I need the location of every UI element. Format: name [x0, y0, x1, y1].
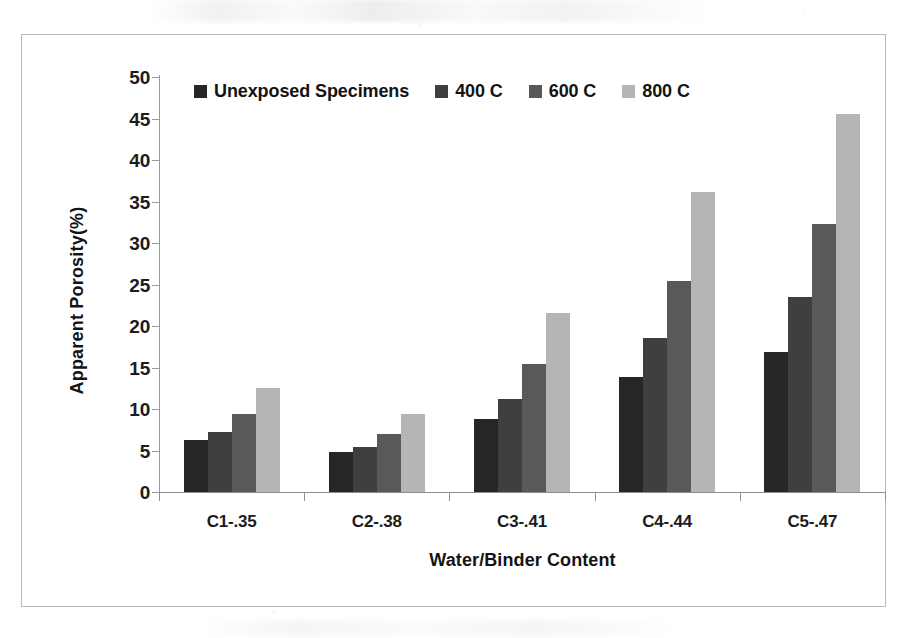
bar[interactable] — [619, 377, 643, 492]
y-axis-tick-label: 40 — [110, 151, 150, 170]
bar-group — [159, 77, 304, 492]
bar[interactable] — [836, 114, 860, 492]
bar[interactable] — [691, 192, 715, 492]
y-axis-tick — [152, 285, 160, 286]
x-axis-title: Water/Binder Content — [159, 550, 886, 571]
bar[interactable] — [764, 352, 788, 492]
bar[interactable] — [401, 414, 425, 492]
y-axis-tick — [152, 160, 160, 161]
x-axis-category-label: C4-.44 — [595, 513, 740, 530]
bar[interactable] — [667, 281, 691, 492]
y-axis-tick-labels: 05101520253035404550 — [72, 35, 150, 608]
y-axis-tick — [152, 368, 160, 369]
bar[interactable] — [208, 432, 232, 492]
bar[interactable] — [474, 419, 498, 492]
x-axis-tick — [595, 492, 596, 501]
bar[interactable] — [788, 297, 812, 492]
y-axis-tick — [152, 119, 160, 120]
y-axis-tick — [152, 451, 160, 452]
y-axis-tick — [152, 243, 160, 244]
bar-group — [304, 77, 449, 492]
bar[interactable] — [522, 364, 546, 492]
y-axis-tick-label: 30 — [110, 234, 150, 253]
bar-group — [595, 77, 740, 492]
bar-group — [740, 77, 885, 492]
bar[interactable] — [377, 434, 401, 492]
bar[interactable] — [546, 313, 570, 492]
plot-area — [159, 77, 885, 492]
scan-smudge-top — [150, 0, 710, 22]
bar[interactable] — [184, 440, 208, 492]
y-axis-tick-label: 10 — [110, 400, 150, 419]
x-axis-tick — [304, 492, 305, 501]
bar[interactable] — [498, 399, 522, 492]
x-axis-line — [159, 492, 886, 493]
y-axis-tick — [152, 202, 160, 203]
y-axis-tick-label: 45 — [110, 110, 150, 129]
y-axis-tick-label: 0 — [110, 483, 150, 502]
x-axis-category-label: C5-.47 — [740, 513, 885, 530]
y-axis-tick-label: 15 — [110, 359, 150, 378]
y-axis-tick — [152, 409, 160, 410]
bar[interactable] — [329, 452, 353, 492]
y-axis-tick-label: 20 — [110, 317, 150, 336]
x-axis-category-label: C1-.35 — [159, 513, 304, 530]
scan-smudge-bottom — [200, 620, 680, 636]
x-axis-tick — [885, 492, 886, 501]
bar[interactable] — [812, 224, 836, 492]
chart-frame: Apparent Porosity(%) 0510152025303540455… — [21, 34, 886, 607]
bar[interactable] — [232, 414, 256, 492]
bar[interactable] — [643, 338, 667, 492]
x-axis-tick — [740, 492, 741, 501]
y-axis-tick — [152, 77, 160, 78]
y-axis-tick-label: 35 — [110, 193, 150, 212]
x-axis-category-label: C2-.38 — [304, 513, 449, 530]
y-axis-tick-label: 25 — [110, 276, 150, 295]
x-axis-category-label: C3-.41 — [449, 513, 594, 530]
bar[interactable] — [353, 447, 377, 492]
bar[interactable] — [256, 388, 280, 492]
y-axis-tick — [152, 326, 160, 327]
y-axis-tick-label: 5 — [110, 442, 150, 461]
x-axis-tick — [449, 492, 450, 501]
bar-group — [449, 77, 594, 492]
y-axis-tick-label: 50 — [110, 68, 150, 87]
x-axis-tick-origin — [159, 492, 160, 501]
